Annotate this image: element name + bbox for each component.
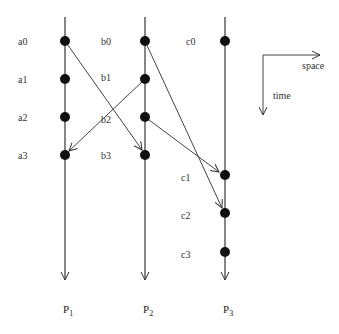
time-label: time xyxy=(273,91,291,101)
space-label: space xyxy=(302,61,324,71)
event-c3 xyxy=(220,247,230,257)
process-label-p1: P1 xyxy=(63,303,73,318)
label-b0: b0 xyxy=(101,37,111,47)
process-label-p3: P3 xyxy=(223,303,233,318)
label-c0: c0 xyxy=(186,37,195,47)
message-b2-c1 xyxy=(145,117,219,172)
label-a2: a2 xyxy=(18,113,27,123)
label-c3: c3 xyxy=(181,250,190,260)
label-c2: c2 xyxy=(181,211,190,221)
event-c1 xyxy=(220,170,230,180)
process-label-p2: P2 xyxy=(143,303,153,318)
label-b3: b3 xyxy=(101,151,111,161)
event-b1 xyxy=(140,74,150,84)
event-a0 xyxy=(60,36,70,46)
label-a1: a1 xyxy=(18,75,27,85)
label-a3: a3 xyxy=(18,151,27,161)
event-a2 xyxy=(60,112,70,122)
event-b3 xyxy=(140,150,150,160)
event-a1 xyxy=(60,74,70,84)
event-a3 xyxy=(60,150,70,160)
label-a0: a0 xyxy=(18,37,27,47)
message-a0-b3 xyxy=(65,41,142,150)
space-time-diagram xyxy=(0,0,339,334)
event-c2 xyxy=(220,208,230,218)
label-c1: c1 xyxy=(181,173,190,183)
label-b1: b1 xyxy=(101,73,111,83)
event-b0 xyxy=(140,36,150,46)
event-c0 xyxy=(220,36,230,46)
event-b2 xyxy=(140,112,150,122)
label-b2: b2 xyxy=(101,115,111,125)
